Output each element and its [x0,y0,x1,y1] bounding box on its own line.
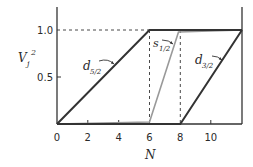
x-axis-label: N [144,148,156,162]
x-tick-label: 0 [54,132,60,143]
annotation-d52-sub: 5/2 [90,68,102,76]
annotation-d32-sub: 3/2 [202,62,214,70]
annotation-s12-sub: 1/2 [159,45,171,53]
y-axis-label-sup: 2 [30,48,36,57]
x-tick-label: 8 [177,132,183,143]
x-tick-label: 10 [204,132,217,143]
x-tick-label: 6 [146,132,152,143]
y-tick-label: 0.5 [37,72,53,83]
chart-canvas: 0 2 4 6 8 10 1.0 0.5 N V j 2 d 5/2 s 1/2… [0,0,253,167]
x-tick-label: 4 [116,132,122,143]
y-tick-label: 1.0 [37,25,53,36]
x-tick-label: 2 [85,132,91,143]
